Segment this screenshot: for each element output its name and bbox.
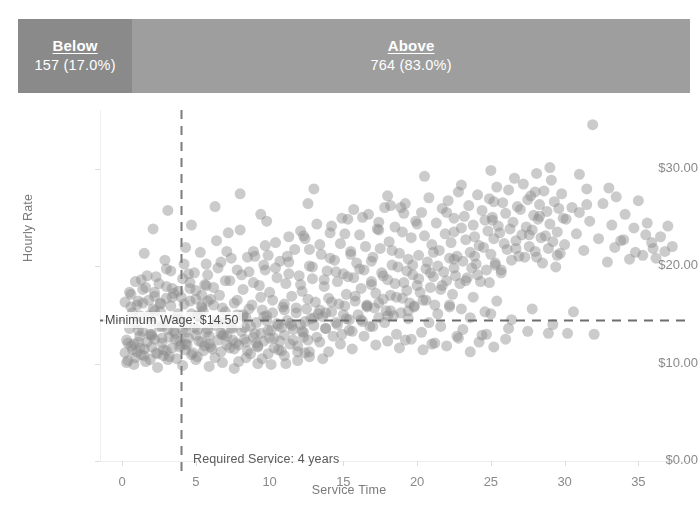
required-service-annotation: Required Service: 4 years: [193, 452, 339, 466]
summary-segment-below[interactable]: Below 157 (17.0%): [18, 19, 132, 93]
y-axis-tick-2: $20.00: [624, 257, 698, 272]
summary-segment-above-count: 764 (83.0%): [371, 56, 452, 75]
y-axis-tick-0: $0.00: [624, 452, 698, 467]
summary-segment-above-title: Above: [388, 37, 435, 54]
summary-bar: Below 157 (17.0%) Above 764 (83.0%): [18, 19, 690, 93]
scatter-plot: Hourly Rate Service Time $0.00$10.00$20.…: [0, 100, 698, 530]
summary-segment-below-count: 157 (17.0%): [35, 56, 116, 75]
x-axis-tick-3: 15: [323, 474, 363, 489]
x-axis-tick-2: 10: [250, 474, 290, 489]
x-axis-tick-5: 25: [471, 474, 511, 489]
summary-segment-below-title: Below: [53, 37, 98, 54]
summary-segment-above[interactable]: Above 764 (83.0%): [132, 19, 690, 93]
x-axis-tick-4: 20: [397, 474, 437, 489]
y-axis-tick-1: $10.00: [624, 355, 698, 370]
x-axis-tick-6: 30: [545, 474, 585, 489]
x-axis-tick-7: 35: [618, 474, 658, 489]
x-axis-tick-0: 0: [102, 474, 142, 489]
minimum-wage-annotation: Minimum Wage: $14.50: [103, 312, 242, 328]
y-axis-tick-3: $30.00: [624, 160, 698, 175]
x-axis-tick-1: 5: [176, 474, 216, 489]
y-axis-label: Hourly Rate: [21, 194, 35, 262]
